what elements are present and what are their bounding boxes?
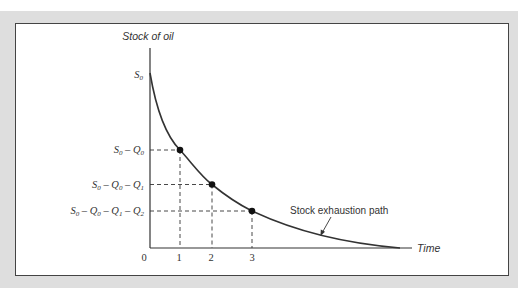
x-tick-3: 3 [249,252,254,263]
data-point-1 [177,147,184,154]
data-point-2 [209,181,216,188]
stock-exhaustion-curve [150,73,400,248]
y-tick-s0-q0-q1: S0 – Q0 – Q1 [92,179,144,192]
y-tick-s0: S0 [134,69,143,82]
x-axis-title: Time [417,242,440,254]
data-point-3 [249,208,256,215]
stock-exhaustion-chart: Stock of oil Time S0 S0 – Q0 S0 – Q0 – Q… [0,0,531,294]
guide-lines [150,150,252,248]
x-tick-1: 1 [176,252,181,263]
x-tick-2: 2 [208,252,213,263]
y-tick-s0-q0: S0 – Q0 [114,144,145,157]
x-tick-0: 0 [141,252,146,263]
annotation-arrow-icon [321,217,332,236]
y-axis-title: Stock of oil [122,30,174,42]
y-tick-s0-q0-q1-q2: S0 – Q0 – Q1 – Q2 [70,205,144,218]
curve-annotation: Stock exhaustion path [290,205,388,216]
